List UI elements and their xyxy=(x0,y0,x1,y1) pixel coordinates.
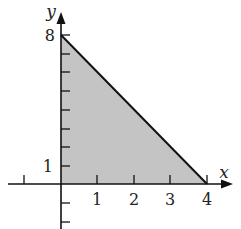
x-axis-label: x xyxy=(219,162,229,182)
y-tick-label-1: 1 xyxy=(43,157,53,176)
x-tick-label-3: 3 xyxy=(165,190,175,209)
chart: 1 2 3 4 1 8 x y xyxy=(0,0,241,229)
x-tick-label-2: 2 xyxy=(129,190,139,209)
x-tick-label-1: 1 xyxy=(92,190,102,209)
y-tick-label-8: 8 xyxy=(45,26,55,45)
y-axis-label: y xyxy=(45,1,56,21)
x-tick-label-4: 4 xyxy=(202,190,212,209)
y-axis-arrow-icon xyxy=(57,12,66,24)
